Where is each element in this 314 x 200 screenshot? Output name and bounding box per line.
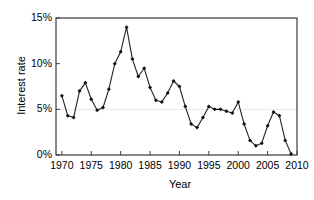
data-point: [207, 105, 211, 109]
data-point: [183, 105, 187, 109]
data-point: [60, 94, 64, 98]
data-point: [230, 111, 234, 115]
data-point: [72, 116, 76, 120]
data-point: [283, 138, 287, 142]
x-axis-ticks: [62, 151, 297, 155]
data-point: [154, 98, 158, 102]
x-axis-title: Year: [55, 178, 305, 191]
plot-frame: [56, 18, 297, 155]
data-point: [89, 97, 93, 101]
interest-rate-line-chart: Interest rate 0%5%10%15% 197019751980198…: [0, 0, 314, 200]
axes-border: [56, 18, 297, 155]
data-line: [62, 27, 291, 154]
data-point-markers: [60, 25, 293, 156]
data-point: [266, 124, 270, 128]
data-point: [236, 100, 240, 104]
data-point: [242, 122, 246, 126]
plot-area: [0, 0, 314, 200]
data-point: [148, 85, 152, 89]
data-point: [119, 50, 123, 54]
data-point: [219, 107, 223, 111]
data-point: [125, 25, 129, 29]
data-point: [213, 107, 217, 111]
data-point: [130, 57, 134, 61]
data-point: [260, 141, 264, 145]
data-point: [66, 114, 70, 118]
data-point: [113, 62, 117, 66]
data-point: [107, 87, 111, 91]
